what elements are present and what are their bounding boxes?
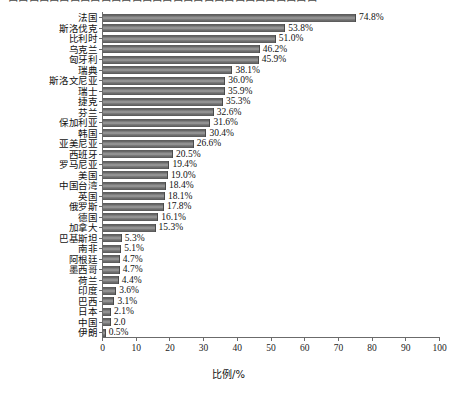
x-axis-label: 比例/% [0,366,457,381]
bar-row: 南非5.1% [0,243,457,254]
y-tick [99,269,102,270]
y-tick [99,38,102,39]
bar [103,14,356,22]
bar-value-label: 4.4% [122,275,142,286]
category-label: 巴基斯坦 [2,233,98,244]
bar [103,213,158,221]
bar [103,203,164,211]
bar-value-label: 45.9% [262,54,287,65]
bar-chart: 口口口口口口口口口口口口口口口口口口口口口口口口口口口口口口 法国74.8%斯洛… [0,0,457,396]
bar-value-label: 35.3% [226,96,251,107]
y-tick [99,91,102,92]
bar [103,287,116,295]
bar-value-label: 5.3% [125,233,145,244]
x-tick-label: 30 [199,343,209,354]
y-tick [99,238,102,239]
category-label: 阿根廷 [2,254,98,265]
bar-value-label: 2.0 [114,317,126,328]
bar-row: 中国2.0 [0,317,457,328]
bar [103,129,206,137]
bar [103,234,122,242]
y-tick [99,154,102,155]
bar [103,108,214,116]
bar-row: 比利时51.0% [0,33,457,44]
x-tick [338,337,339,341]
category-label: 美国 [2,170,98,181]
x-tick-label: 80 [367,343,377,354]
x-tick [405,337,406,341]
category-label: 墨西哥 [2,264,98,275]
x-tick [102,337,103,341]
bar-row: 瑞典38.1% [0,65,457,76]
y-tick [99,28,102,29]
bar-row: 阿根廷4.7% [0,254,457,265]
x-tick [237,337,238,341]
bar-row: 罗马尼亚19.4% [0,159,457,170]
x-tick [203,337,204,341]
x-tick [439,337,440,341]
bar [103,66,232,74]
bar-row: 墨西哥4.7% [0,264,457,275]
bar [103,329,106,337]
x-tick-label: 100 [432,343,446,354]
category-label: 捷克 [2,96,98,107]
bar-value-label: 15.3% [159,222,184,233]
bar-row: 印度3.6% [0,285,457,296]
bar-value-label: 0.5% [109,327,129,338]
bar [103,35,276,43]
bar-value-label: 30.4% [209,128,234,139]
bar [103,192,165,200]
y-tick [99,217,102,218]
x-tick-label: 70 [334,343,344,354]
bar [103,45,260,53]
category-label: 中国台湾 [2,180,98,191]
y-tick [99,280,102,281]
x-tick [136,337,137,341]
y-tick [99,133,102,134]
x-tick [169,337,170,341]
bar [103,24,285,32]
x-tick-label: 10 [131,343,141,354]
y-tick [99,248,102,249]
bar [103,56,259,64]
y-tick [99,332,102,333]
x-tick [372,337,373,341]
y-tick [99,80,102,81]
category-label: 斯洛伐克 [2,23,98,34]
category-label: 俄罗斯 [2,201,98,212]
bar-value-label: 4.7% [123,264,143,275]
bar-value-label: 74.8% [359,12,384,23]
bar-row: 匈牙利45.9% [0,54,457,65]
category-label: 罗马尼亚 [2,159,98,170]
bar [103,266,120,274]
y-tick [99,122,102,123]
bar-row: 西班牙20.5% [0,149,457,160]
bar-row: 加拿大15.3% [0,222,457,233]
bar [103,98,223,106]
y-tick [99,17,102,18]
category-label: 比利时 [2,33,98,44]
clipped-header-text: 口口口口口口口口口口口口口口口口口口口口口口口口口口口口口口 [8,0,448,4]
category-label: 英国 [2,191,98,202]
bar [103,255,120,263]
bar-row: 亚美尼亚26.6% [0,138,457,149]
bar-value-label: 5.1% [124,243,144,254]
bar-value-label: 17.8% [167,201,192,212]
bar-value-label: 19.4% [172,159,197,170]
bar-row: 斯洛文尼亚36.0% [0,75,457,86]
bar [103,308,111,316]
category-label: 西班牙 [2,149,98,160]
bar-value-label: 3.6% [119,285,139,296]
bar-value-label: 2.1% [114,306,134,317]
bar-row: 德国16.1% [0,212,457,223]
bar-row: 捷克35.3% [0,96,457,107]
bar-row: 英国18.1% [0,191,457,202]
x-tick [271,337,272,341]
x-tick-label: 60 [300,343,310,354]
bar-row: 保加利亚31.6% [0,117,457,128]
bar [103,150,173,158]
y-tick [99,311,102,312]
bar-value-label: 3.1% [117,296,137,307]
y-tick [99,206,102,207]
bar [103,318,111,326]
